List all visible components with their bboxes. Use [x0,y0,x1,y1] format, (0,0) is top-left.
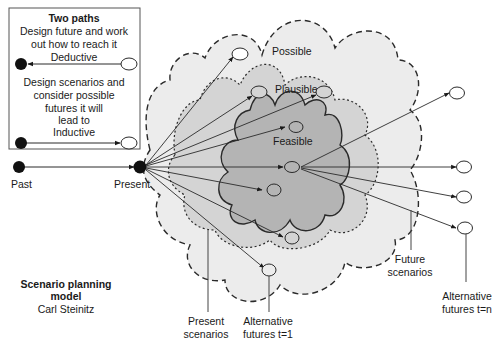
deductive-future-node [121,58,137,70]
caption-title-2: model [51,290,82,302]
deductive-start-node [15,58,27,70]
inductive-start-node [15,137,27,149]
future-node [458,222,473,234]
inductive-desc-2: consider possible [33,89,114,101]
future-node [289,122,303,133]
future-node [450,87,465,99]
future-node [316,86,332,98]
alt-futures-t1-label-2: futures t=1 [243,328,293,340]
deductive-label: Deductive [51,51,98,63]
possible-label: Possible [272,45,312,57]
future-node [262,264,276,276]
two-paths-legend: Two paths Design future and work out how… [9,8,140,149]
inductive-desc-1: Design scenarios and [24,76,125,88]
legend-title: Two paths [48,12,99,24]
deductive-desc-2: out how to reach it [31,38,117,50]
alternative-futures-tn [450,87,473,234]
future-node [457,161,472,173]
future-node [232,48,248,60]
alt-futures-t1-label-1: Alternative [243,315,293,327]
present-scenarios-label-2: scenarios [184,328,229,340]
alt-futures-tn-label-2: futures t=n [442,303,492,315]
future-node [267,184,281,196]
present-node [134,161,147,174]
future-node [285,162,300,173]
feasible-label: Feasible [273,135,313,147]
future-node [251,86,267,98]
deductive-desc-1: Design future and work [20,25,129,37]
future-node [285,232,299,244]
future-scenarios-label-2: scenarios [388,266,433,278]
caption-author: Carl Steinitz [38,303,95,315]
inductive-label: Inductive [53,126,95,138]
future-scenarios-label-1: Future [395,253,426,265]
past-node [13,161,25,173]
caption-title-1: Scenario planning [20,278,111,290]
inductive-future-node [121,137,137,149]
plausible-label: Plausible [275,83,318,95]
present-label: Present [114,178,150,190]
scenario-planning-diagram: Possible Plausible Feasible Two paths De… [0,0,501,345]
alt-futures-tn-label-1: Alternative [442,290,492,302]
inductive-desc-4: lead to [58,114,90,126]
past-label: Past [11,178,32,190]
present-scenarios-label-1: Present [188,315,224,327]
future-node [457,191,472,203]
inductive-desc-3: futures it will [45,102,103,114]
